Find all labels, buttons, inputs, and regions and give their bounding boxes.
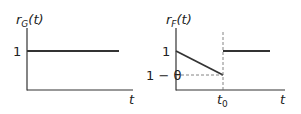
xlabel-t: t [280,92,286,107]
x-tick-t0: t0 [217,92,228,109]
y-tick-1: 1 [162,44,170,59]
xlabel-t: t [129,92,135,107]
panel-rG: rG(t) 1 t [13,12,135,107]
ylabel-rG: rG(t) [16,12,44,29]
diagram: rG(t) 1 t rF(t) 1 1 − θ t0 t [0,0,301,114]
y-tick-1-minus-theta: 1 − θ [146,68,181,83]
ylabel-rF: rF(t) [166,12,192,29]
y-tick-1: 1 [13,44,21,59]
panel-rF: rF(t) 1 1 − θ t0 t [146,12,286,109]
decline-line [176,51,223,75]
